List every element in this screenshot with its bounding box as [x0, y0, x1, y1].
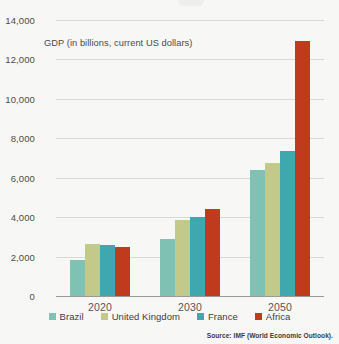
bar-france-2020	[100, 245, 115, 296]
legend-item-united-kingdom[interactable]: United Kingdom	[101, 311, 180, 322]
legend-label-france: France	[208, 311, 238, 322]
chart-legend: BrazilUnited KingdomFranceAfrica	[0, 311, 339, 322]
legend-label-africa: Africa	[266, 311, 291, 322]
bar-united-kingdom-2030	[175, 220, 190, 296]
gdp-projection-bar-chart: GDP (in billions, current US dollars) 02…	[0, 0, 339, 344]
y-tick-label-2000: 2,000	[0, 251, 35, 262]
y-tick-label-6000: 6,000	[0, 172, 35, 183]
legend-item-france[interactable]: France	[197, 311, 238, 322]
legend-label-united-kingdom: United Kingdom	[112, 311, 180, 322]
plot-area: 02,0004,0006,0008,00010,00012,00014,000 …	[56, 20, 324, 296]
bar-group-2030	[160, 20, 220, 296]
legend-item-africa[interactable]: Africa	[255, 311, 291, 322]
y-tick-label-4000: 4,000	[0, 212, 35, 223]
source-note: Source: IMF (World Economic Outlook).	[207, 332, 333, 339]
legend-item-brazil[interactable]: Brazil	[49, 311, 84, 322]
bar-united-kingdom-2020	[85, 244, 100, 296]
bar-brazil-2020	[70, 260, 85, 296]
bar-brazil-2050	[250, 170, 265, 296]
bar-group-2020	[70, 20, 130, 296]
y-tick-label-14000: 14,000	[0, 15, 35, 26]
bar-group-2050	[250, 20, 310, 296]
bar-france-2030	[190, 217, 205, 296]
legend-swatch-brazil	[49, 313, 56, 320]
y-tick-label-0: 0	[0, 291, 35, 302]
bar-france-2050	[280, 151, 295, 296]
gridline-0	[56, 296, 324, 297]
legend-swatch-france	[197, 313, 204, 320]
bar-africa-2050	[295, 41, 310, 296]
y-tick-label-12000: 12,000	[0, 54, 35, 65]
legend-swatch-africa	[255, 313, 262, 320]
y-tick-label-8000: 8,000	[0, 133, 35, 144]
legend-label-brazil: Brazil	[60, 311, 84, 322]
bar-africa-2020	[115, 247, 130, 296]
bar-brazil-2030	[160, 239, 175, 296]
bar-united-kingdom-2050	[265, 163, 280, 296]
bar-africa-2030	[205, 209, 220, 296]
y-tick-label-10000: 10,000	[0, 93, 35, 104]
legend-swatch-united-kingdom	[101, 313, 108, 320]
top-crop-artifact	[178, 0, 204, 6]
